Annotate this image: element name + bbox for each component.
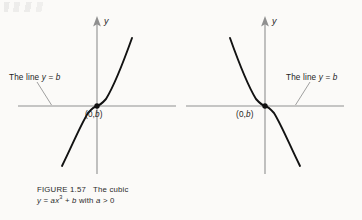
figure-1-58: y The line y = b (0,b) FIGURE 1.58The cu… [181,0,362,220]
annotation-line-y-equals-b: The line y = b [286,73,338,82]
y-axis-label: y [104,16,109,26]
scanned-page: y The line y = b (0,b) FIGURE 1.57The cu… [0,0,362,220]
plot-area-right [181,0,362,178]
figure-number: FIGURE 1.57 [37,185,86,194]
equation-exponent: 3 [59,195,62,201]
y-axis-label: y [272,16,277,26]
origin-point-label: (0,b) [236,110,254,119]
origin-point-marker [94,103,99,108]
figure-equation: y = ax3 + b with a > 0 [37,195,129,206]
figure-caption-lead: The cubic [93,185,129,194]
figure-1-57: y The line y = b (0,b) FIGURE 1.57The cu… [0,0,181,220]
figure-caption-1-57: FIGURE 1.57The cubic y = ax3 + b with a … [37,184,129,206]
plot-area-left [0,0,181,178]
annotation-line-y-equals-b: The line y = b [9,73,61,82]
annotation-leader-line [37,82,52,105]
origin-point-label: (0,b) [85,110,103,119]
annotation-leader-line [296,82,311,105]
origin-point-marker [262,103,267,108]
